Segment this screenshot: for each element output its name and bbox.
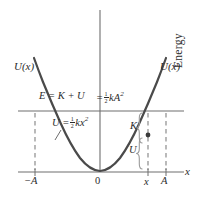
x-axis-label: x	[185, 166, 190, 177]
one-half-fraction-energy: 12	[104, 91, 109, 104]
tick-label-amplitude: A	[161, 176, 167, 187]
energy-expression-exponent: 2	[120, 90, 124, 98]
potential-energy-equation: U =12kx2	[52, 116, 88, 129]
potential-expression-body: kx	[75, 117, 84, 128]
total-energy-equation-lhs: E = K + U	[39, 91, 85, 102]
tick-label-position-x: x	[144, 177, 149, 188]
curve-label-right: U(x)	[160, 61, 180, 72]
curve-label-left: U(x)	[14, 61, 34, 72]
potential-equation-prefix: U =	[52, 117, 69, 128]
state-point-marker	[146, 133, 151, 138]
fraction-numerator: 1	[104, 91, 109, 98]
potential-expression-exponent: 2	[85, 115, 89, 123]
potential-equation-leader-line	[55, 130, 61, 140]
fraction-denominator: 2	[104, 98, 109, 104]
equals-sign-energy: =	[96, 92, 103, 103]
tick-label-origin: 0	[95, 176, 100, 187]
kinetic-energy-label: K	[130, 121, 137, 132]
potential-energy-label: U	[129, 145, 137, 156]
tick-label-neg-amplitude: −A	[24, 176, 38, 187]
total-energy-equation-rhs: =12kA2	[96, 91, 124, 104]
energy-expression-body: kA	[109, 92, 120, 103]
energy-diagram-figure: Energy U(x) U(x) E = K + U =12kA2 U =12k…	[0, 0, 201, 197]
